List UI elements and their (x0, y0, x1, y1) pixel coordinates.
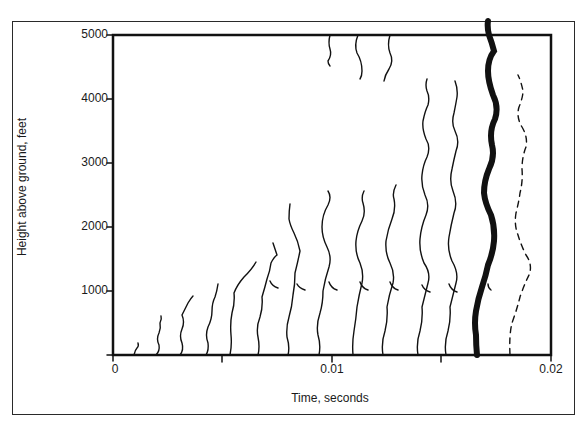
leader-snapshots (134, 35, 458, 355)
snapshot-9 (353, 191, 365, 355)
x-tick-0: 0 (85, 362, 145, 376)
snapshot-7 (287, 204, 300, 355)
snapshot-10 (382, 185, 396, 355)
snapshot-4 (206, 284, 218, 355)
x-tick-0-02: 0.02 (521, 362, 581, 376)
snapshot-11-upper (384, 35, 392, 81)
snapshot-10-upper (356, 35, 362, 79)
y-tick-1000: 1000 (58, 283, 108, 297)
y-tick-5000: 5000 (58, 27, 108, 41)
snapshot-11 (417, 79, 429, 355)
y-tick-3000: 3000 (58, 155, 108, 169)
x-tick-0-01: 0.01 (302, 362, 362, 376)
snapshot-8 (317, 191, 330, 355)
snapshot-1 (134, 343, 138, 355)
y-axis-label: Height above ground, feet (15, 67, 29, 307)
decaying-channel (510, 75, 531, 355)
snapshot-12 (445, 81, 457, 355)
snapshot-2 (156, 316, 161, 355)
x-axis-label: Time, seconds (230, 391, 430, 405)
snapshot-3 (180, 296, 193, 355)
snapshot-9-upper (328, 35, 331, 66)
return-stroke (475, 21, 497, 355)
y-tick-2000: 2000 (58, 219, 108, 233)
y-tick-4000: 4000 (58, 91, 108, 105)
snapshot-6 (257, 243, 277, 355)
snapshot-5 (230, 262, 256, 355)
